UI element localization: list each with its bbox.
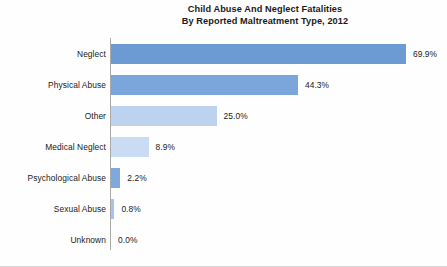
category-label-other: Other: [85, 111, 106, 121]
bar-row: Sexual Abuse 0.8%: [0, 193, 447, 224]
value-label-psychological-abuse: 2.2%: [127, 173, 146, 183]
chart-title-line-2: By Reported Maltreatment Type, 2012: [110, 16, 420, 28]
bar-track: [111, 137, 149, 157]
category-label-medical-neglect: Medical Neglect: [45, 142, 106, 152]
bar-track: [111, 75, 298, 95]
category-label-psychological-abuse: Psychological Abuse: [28, 173, 106, 183]
bar-sexual-abuse: [111, 199, 114, 219]
bar-row: Medical Neglect 8.9%: [0, 131, 447, 162]
bar-track: [111, 44, 406, 64]
bar-chart-figure: Child Abuse And Neglect Fatalities By Re…: [0, 0, 447, 267]
bar-row: Neglect 69.9%: [0, 38, 447, 69]
bar-track: [111, 168, 120, 188]
chart-title: Child Abuse And Neglect Fatalities By Re…: [110, 4, 420, 27]
value-label-other: 25.0%: [224, 111, 248, 121]
bar-other: [111, 106, 217, 126]
value-label-medical-neglect: 8.9%: [156, 142, 175, 152]
category-label-neglect: Neglect: [77, 49, 106, 59]
bar-medical-neglect: [111, 137, 149, 157]
bar-psychological-abuse: [111, 168, 120, 188]
value-label-unknown: 0.0%: [118, 235, 137, 245]
chart-title-line-1: Child Abuse And Neglect Fatalities: [110, 4, 420, 16]
bar-track: [111, 199, 114, 219]
value-label-neglect: 69.9%: [413, 49, 437, 59]
value-label-sexual-abuse: 0.8%: [121, 204, 140, 214]
bar-row: Psychological Abuse 2.2%: [0, 162, 447, 193]
plot-area: Neglect 69.9% Physical Abuse 44.3% Other…: [0, 38, 447, 253]
bar-row: Physical Abuse 44.3%: [0, 69, 447, 100]
bar-row: Unknown 0.0%: [0, 224, 447, 255]
value-label-physical-abuse: 44.3%: [305, 80, 329, 90]
bar-neglect: [111, 44, 406, 64]
bar-physical-abuse: [111, 75, 298, 95]
category-label-physical-abuse: Physical Abuse: [48, 80, 106, 90]
category-label-unknown: Unknown: [70, 235, 106, 245]
bar-track: [111, 106, 217, 126]
category-label-sexual-abuse: Sexual Abuse: [54, 204, 106, 214]
bar-row: Other 25.0%: [0, 100, 447, 131]
